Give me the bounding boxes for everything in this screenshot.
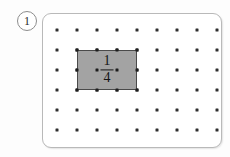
peg-dot [76, 109, 79, 112]
peg-dot [96, 89, 99, 92]
peg-dot [116, 29, 119, 32]
peg-dot [116, 109, 119, 112]
problem-number-badge: 1 [17, 11, 37, 31]
peg-dot [196, 49, 199, 52]
peg-dot [56, 109, 59, 112]
peg-dot [156, 69, 159, 72]
peg-dot [156, 29, 159, 32]
peg-dot [196, 109, 199, 112]
geoboard-card: 1 4 [42, 13, 222, 148]
peg-dot [56, 89, 59, 92]
peg-dot [176, 129, 179, 132]
shaded-rectangle: 1 4 [77, 50, 137, 90]
peg-dot [76, 29, 79, 32]
peg-dot [176, 49, 179, 52]
peg-dot [216, 109, 219, 112]
peg-dot [96, 109, 99, 112]
peg-dot [176, 89, 179, 92]
peg-dot [176, 69, 179, 72]
peg-dot [196, 69, 199, 72]
peg-dot [76, 89, 79, 92]
problem-number-label: 1 [24, 15, 30, 27]
peg-dot [216, 89, 219, 92]
peg-dot [136, 49, 139, 52]
worksheet-problem-panel: 1 1 4 [0, 0, 230, 157]
peg-dot [76, 49, 79, 52]
peg-dot [156, 89, 159, 92]
fraction-denominator: 4 [102, 72, 113, 86]
peg-dot [156, 129, 159, 132]
peg-dot [76, 69, 79, 72]
peg-dot [96, 49, 99, 52]
peg-dot [96, 69, 99, 72]
peg-dot [136, 109, 139, 112]
peg-dot [56, 29, 59, 32]
fraction-numerator: 1 [102, 54, 113, 68]
peg-dot [96, 129, 99, 132]
peg-dot [176, 109, 179, 112]
peg-dot [216, 49, 219, 52]
peg-dot [96, 29, 99, 32]
peg-dot [116, 69, 119, 72]
peg-dot [216, 69, 219, 72]
peg-dot [56, 49, 59, 52]
peg-dot [176, 29, 179, 32]
peg-dot [196, 89, 199, 92]
peg-dot [196, 29, 199, 32]
peg-dot [136, 69, 139, 72]
fraction-label: 1 4 [101, 54, 114, 85]
peg-dot [216, 129, 219, 132]
peg-dot [56, 129, 59, 132]
peg-dot [196, 129, 199, 132]
peg-dot [156, 109, 159, 112]
peg-dot [56, 69, 59, 72]
peg-dot [76, 129, 79, 132]
peg-dot [216, 29, 219, 32]
peg-dot [156, 49, 159, 52]
peg-dot [136, 129, 139, 132]
peg-dot [116, 49, 119, 52]
peg-dot [116, 129, 119, 132]
peg-dot [116, 89, 119, 92]
peg-dot [136, 89, 139, 92]
peg-dot [136, 29, 139, 32]
